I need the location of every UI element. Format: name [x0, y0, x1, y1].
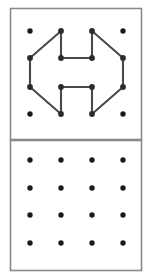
grid-dot: [89, 157, 94, 162]
dot-grid-figure: [0, 0, 152, 279]
path-node-dot: [58, 111, 64, 117]
path-node-dot: [58, 55, 64, 61]
path-node-dot: [120, 84, 126, 90]
grid-dot: [27, 212, 32, 217]
grid-dot: [27, 157, 32, 162]
path-node-dot: [89, 28, 95, 34]
top-panel: [11, 9, 142, 140]
grid-dot: [58, 157, 63, 162]
grid-dot: [120, 185, 125, 190]
grid-dot: [27, 240, 32, 245]
path-node-dot: [89, 84, 95, 90]
path-node-dot: [58, 84, 64, 90]
grid-dot: [27, 185, 32, 190]
path-node-dot: [58, 28, 64, 34]
grid-dot: [120, 28, 125, 33]
path-node-dot: [89, 55, 95, 61]
grid-dot: [120, 157, 125, 162]
grid-dot: [89, 212, 94, 217]
path-node-dot: [89, 111, 95, 117]
grid-dot: [27, 28, 32, 33]
path-node-dot: [120, 55, 126, 61]
grid-dot: [58, 185, 63, 190]
path-node-dot: [27, 84, 33, 90]
figure-container: [0, 0, 152, 279]
grid-dot: [120, 212, 125, 217]
grid-dot: [120, 111, 125, 116]
grid-dot: [58, 240, 63, 245]
grid-dot: [89, 240, 94, 245]
bottom-panel: [11, 141, 142, 271]
grid-dot: [58, 212, 63, 217]
grid-dot: [27, 111, 32, 116]
grid-dot: [120, 240, 125, 245]
path-node-dot: [27, 55, 33, 61]
grid-dot: [89, 185, 94, 190]
